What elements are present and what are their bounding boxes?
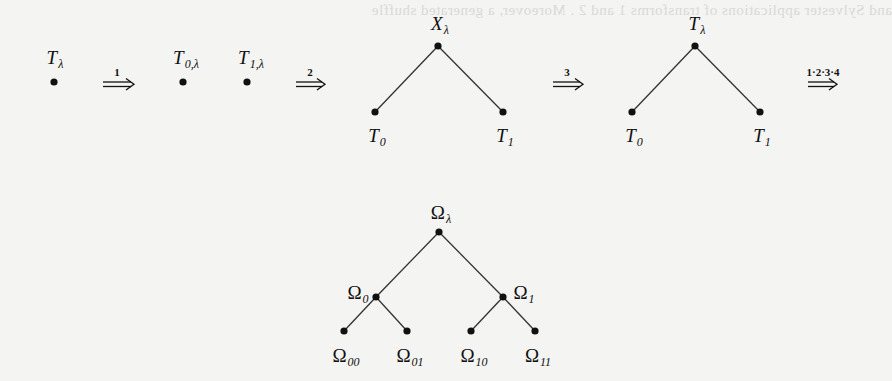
node-t-t1 bbox=[756, 108, 763, 115]
label-x-lambda: Xλ bbox=[431, 14, 449, 36]
node-x-t0 bbox=[371, 108, 378, 115]
label-t-t1: T1 bbox=[753, 126, 771, 148]
arrow-label-2: 2 bbox=[307, 67, 313, 78]
double-arrow-icon-1 bbox=[103, 79, 134, 91]
tree-x-lambda bbox=[371, 42, 506, 115]
node-t-lambda-root bbox=[691, 42, 698, 49]
label-t-lambda-start: Tλ bbox=[47, 48, 64, 70]
node-omega-10 bbox=[467, 327, 474, 334]
arrow-label-3: 3 bbox=[564, 67, 570, 78]
arrow-label-4: 1·2·3·4 bbox=[806, 67, 839, 78]
label-omega-1: Ω1 bbox=[513, 283, 534, 305]
double-arrow-icon-3 bbox=[553, 79, 583, 91]
double-arrow-icon-2 bbox=[296, 79, 325, 91]
node-omega-1 bbox=[499, 293, 506, 300]
node-omega-0 bbox=[372, 293, 379, 300]
label-t-t0: T0 bbox=[625, 126, 643, 148]
node-omega-01 bbox=[403, 327, 410, 334]
label-omega-11: Ω11 bbox=[525, 346, 551, 368]
tree-omega bbox=[340, 228, 538, 334]
label-omega-10: Ω10 bbox=[460, 346, 487, 368]
label-t-lambda-root: Tλ bbox=[689, 14, 706, 36]
double-arrow-icon-4 bbox=[808, 79, 837, 91]
label-t1-lambda: T1,λ bbox=[238, 48, 264, 70]
node-t0-lambda bbox=[179, 78, 186, 85]
arrow-label-1: 1 bbox=[114, 67, 120, 78]
tree-t-lambda bbox=[628, 42, 763, 115]
label-omega-01: Ω01 bbox=[396, 346, 423, 368]
label-omega-00: Ω00 bbox=[332, 346, 359, 368]
label-omega-lambda: Ωλ bbox=[431, 203, 451, 225]
node-x-t1 bbox=[499, 108, 506, 115]
label-omega-0: Ω0 bbox=[347, 283, 368, 305]
label-x-t0: T0 bbox=[368, 126, 386, 148]
label-t0-lambda: T0,λ bbox=[173, 48, 199, 70]
node-t1-lambda bbox=[243, 78, 250, 85]
node-t-lambda-start bbox=[50, 78, 57, 85]
node-omega-00 bbox=[340, 327, 347, 334]
label-x-t1: T1 bbox=[496, 126, 514, 148]
node-omega-lambda bbox=[435, 228, 442, 235]
node-t-t0 bbox=[628, 108, 635, 115]
node-x-lambda bbox=[434, 42, 441, 49]
node-omega-11 bbox=[531, 327, 538, 334]
diagram-canvas bbox=[0, 0, 892, 381]
